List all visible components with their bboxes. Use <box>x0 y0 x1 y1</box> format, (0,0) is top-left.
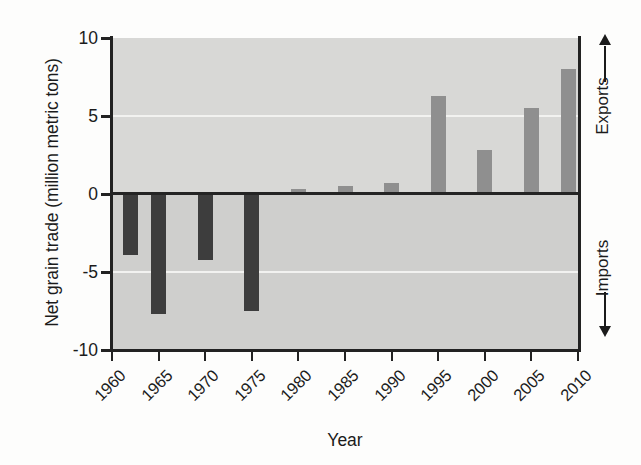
bar-1965 <box>151 194 166 314</box>
x-tick-mark-2010 <box>577 350 579 361</box>
bar-2000 <box>477 150 492 194</box>
y-tick-label-10: 10 <box>52 30 98 48</box>
x-tick-mark-1960 <box>111 350 113 361</box>
bar-2005 <box>524 108 539 194</box>
x-tick-mark-1970 <box>204 350 206 361</box>
y-tick-label-neg10: -10 <box>52 342 98 360</box>
x-tick-label-1990: 1990 <box>362 366 409 413</box>
gridline-5 <box>112 115 578 117</box>
x-tick-label-1960: 1960 <box>82 366 129 413</box>
x-axis-title: Year <box>112 430 578 451</box>
imports-label: Imports <box>593 213 613 323</box>
y-tick-label-wrap: 0 <box>46 186 98 204</box>
down-arrow-stem <box>604 292 606 328</box>
net-grain-trade-bar-chart: Net grain trade (million metric tons) 10… <box>0 0 641 465</box>
x-tick-label-1970: 1970 <box>175 366 222 413</box>
y-tick-label-wrap: 10 <box>46 30 98 48</box>
plot-area <box>112 38 578 350</box>
down-arrow-icon <box>599 326 611 337</box>
up-arrow-stem <box>604 46 606 82</box>
x-tick-label-2005: 2005 <box>501 366 548 413</box>
y-tick-label-5: 5 <box>52 108 98 126</box>
up-arrow-icon <box>599 34 611 45</box>
y-tick-label-0: 0 <box>52 186 98 204</box>
x-tick-mark-1995 <box>437 350 439 361</box>
x-tick-mark-1965 <box>158 350 160 361</box>
gridline-neg5 <box>112 271 578 273</box>
axis-spine-right <box>578 36 581 352</box>
zero-line <box>112 192 578 195</box>
y-tick-label-neg5: -5 <box>52 264 98 282</box>
x-tick-mark-2005 <box>530 350 532 361</box>
x-tick-mark-2000 <box>484 350 486 361</box>
x-tick-label-1975: 1975 <box>222 366 269 413</box>
bar-1975 <box>244 194 259 311</box>
x-tick-label-1985: 1985 <box>315 366 362 413</box>
y-tick-label-wrap: -5 <box>46 264 98 282</box>
x-tick-label-2010: 2010 <box>548 366 595 413</box>
x-tick-label-2000: 2000 <box>455 366 502 413</box>
x-tick-mark-1985 <box>344 350 346 361</box>
x-tick-mark-1975 <box>251 350 253 361</box>
y-tick-label-wrap: 5 <box>46 108 98 126</box>
x-tick-mark-1980 <box>297 350 299 361</box>
x-tick-label-1965: 1965 <box>129 366 176 413</box>
bar-1962 <box>123 194 138 255</box>
exports-label: Exports <box>593 51 613 161</box>
y-tick-label-wrap: -10 <box>46 342 98 360</box>
bar-1970 <box>198 194 213 260</box>
x-tick-mark-1990 <box>391 350 393 361</box>
x-tick-label-1980: 1980 <box>268 366 315 413</box>
bar-2009 <box>561 69 576 194</box>
bar-1995 <box>431 96 446 194</box>
x-tick-label-1995: 1995 <box>408 366 455 413</box>
